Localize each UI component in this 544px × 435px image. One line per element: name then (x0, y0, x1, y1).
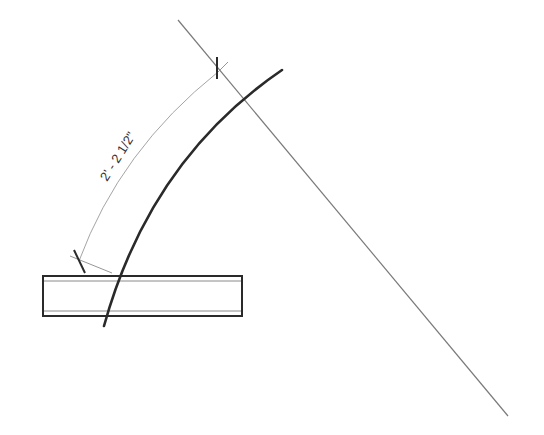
extension-line-start (70, 256, 112, 273)
curved-wall-line (104, 70, 282, 326)
dimension-label: 2' - 2 1/2" (97, 129, 139, 184)
reference-line (178, 20, 508, 416)
dimension-arc (79, 72, 218, 261)
beam (43, 276, 242, 316)
drawing-canvas: 2' - 2 1/2" (0, 0, 544, 435)
extension-line-end (218, 62, 228, 72)
